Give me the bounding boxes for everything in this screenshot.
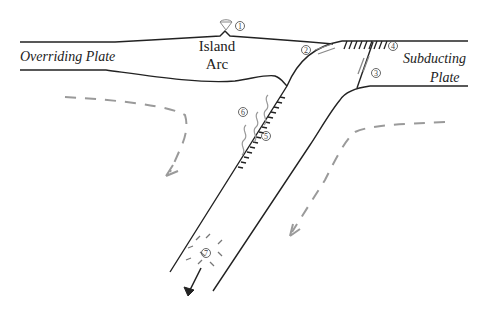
marker-2: 2 bbox=[302, 46, 311, 55]
mantle-wedge-flow bbox=[65, 97, 186, 176]
island-arc-label-line1: Island bbox=[199, 38, 236, 54]
volcano-icon bbox=[220, 20, 232, 30]
marker-7: 7 bbox=[202, 249, 211, 258]
marker-3: 3 bbox=[372, 69, 381, 78]
outer-rise-hatching bbox=[344, 41, 387, 49]
subducting-plate-label-line2: Plate bbox=[429, 70, 460, 85]
subduction-diagram: Overriding Plate Island Arc Subducting P… bbox=[0, 0, 486, 310]
subducting-slab bbox=[170, 41, 370, 291]
marker-6: 6 bbox=[239, 108, 248, 117]
fault-slip-arrows bbox=[358, 56, 369, 74]
svg-text:3: 3 bbox=[374, 69, 378, 78]
overriding-plate-label: Overriding Plate bbox=[20, 49, 115, 64]
island-arc-label-line2: Arc bbox=[206, 56, 229, 72]
marker-5: 5 bbox=[262, 132, 271, 141]
svg-text:5: 5 bbox=[264, 132, 268, 141]
subducting-plate-label-line1: Subducting bbox=[403, 51, 466, 66]
svg-text:2: 2 bbox=[304, 46, 308, 55]
marker-4: 4 bbox=[389, 42, 398, 51]
svg-text:6: 6 bbox=[241, 108, 245, 117]
slab-bottom-edge bbox=[213, 86, 370, 291]
slab-top-edge bbox=[170, 41, 342, 272]
slab-descent-arrow bbox=[184, 268, 201, 296]
overriding-plate-bottom-line bbox=[20, 70, 287, 86]
svg-text:1: 1 bbox=[238, 22, 242, 31]
fluid-waves bbox=[242, 95, 268, 155]
marker-1: 1 bbox=[236, 22, 245, 31]
svg-text:4: 4 bbox=[391, 42, 395, 51]
svg-text:7: 7 bbox=[204, 249, 208, 258]
overriding-plate-top-line bbox=[20, 31, 333, 44]
